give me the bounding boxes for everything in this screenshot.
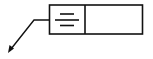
feature-control-frame-diagram (0, 0, 153, 59)
leader-line (11, 20, 50, 49)
symmetry-icon (55, 14, 79, 26)
